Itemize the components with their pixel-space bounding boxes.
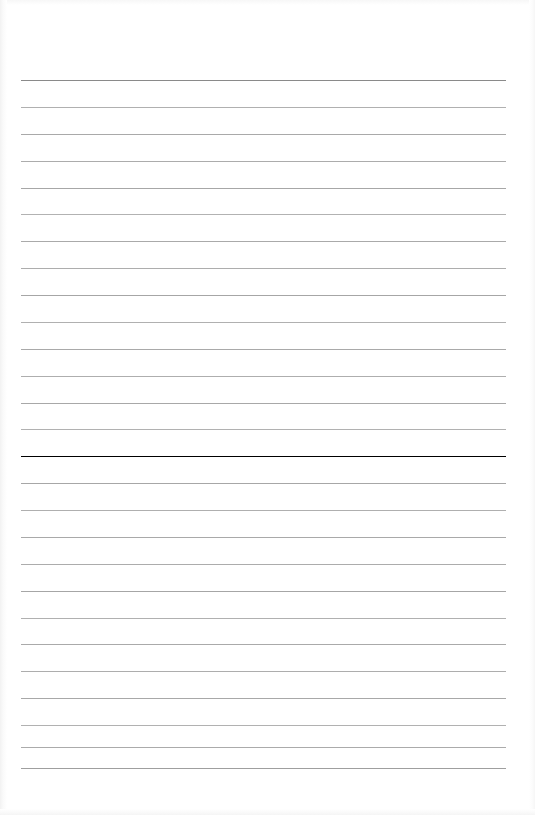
rule-line (21, 80, 506, 81)
rule-line (21, 134, 506, 135)
rule-line (21, 188, 506, 189)
rule-line (21, 747, 506, 748)
rule-line (21, 376, 506, 377)
rule-line (21, 429, 506, 430)
rule-line (21, 644, 506, 645)
rule-line (21, 295, 506, 296)
rule-line (21, 322, 506, 323)
rule-line (21, 618, 506, 619)
rule-line (21, 161, 506, 162)
rule-line (21, 725, 506, 726)
rule-line (21, 698, 506, 699)
rule-line (21, 107, 506, 108)
rule-line (21, 349, 506, 350)
writing-area[interactable] (0, 0, 535, 815)
rule-line (21, 671, 506, 672)
rule-line (21, 564, 506, 565)
rule-line (21, 241, 506, 242)
rule-line (21, 483, 506, 484)
rule-line (21, 768, 506, 769)
lined-paper-page (0, 0, 535, 815)
rule-line (21, 456, 506, 457)
rule-line (21, 510, 506, 511)
rule-line (21, 214, 506, 215)
rule-line (21, 591, 506, 592)
rule-line (21, 403, 506, 404)
rule-line (21, 537, 506, 538)
rule-line (21, 268, 506, 269)
